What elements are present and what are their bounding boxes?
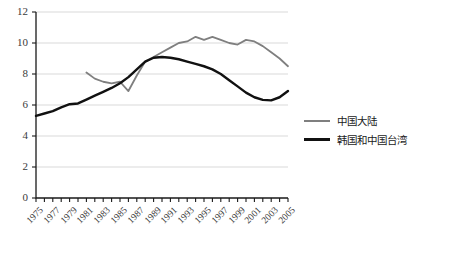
series-line-0 — [86, 37, 288, 91]
y-axis-tick-label: 10 — [6, 37, 28, 48]
gridlines — [36, 12, 288, 167]
y-axis-tick-label: 4 — [6, 130, 28, 141]
legend-item-1: 韩国和中国台湾 — [304, 132, 407, 147]
y-axis-tick-label: 8 — [6, 68, 28, 79]
legend-item-0: 中国大陆 — [304, 113, 377, 128]
series-line-1 — [36, 57, 288, 116]
legend-label-1: 韩国和中国台湾 — [337, 132, 407, 147]
legend-label-0: 中国大陆 — [337, 113, 377, 128]
y-axis-tick-label: 12 — [6, 6, 28, 17]
chart-figure: 0246810121975197719791981198319851987198… — [0, 0, 457, 254]
legend-swatch-0 — [304, 120, 330, 122]
y-axis-tick-label: 0 — [6, 192, 28, 203]
y-axis-tick-label: 2 — [6, 161, 28, 172]
legend-swatch-1 — [304, 138, 330, 141]
y-axis-tick-label: 6 — [6, 99, 28, 110]
